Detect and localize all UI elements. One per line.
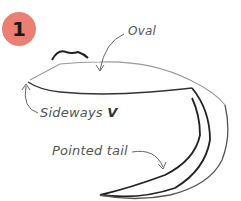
sketch-drawing <box>0 0 241 201</box>
step-number-badge: 1 <box>2 12 36 46</box>
label-sideways-v-letter: V <box>107 105 117 120</box>
drawing-step-canvas: 1 Oval Sideways V Pointed tail <box>0 0 241 201</box>
label-sideways-v: Sideways V <box>40 105 117 120</box>
label-oval: Oval <box>128 24 156 38</box>
oval-top-stroke <box>30 62 225 105</box>
oval-arrow <box>100 34 124 70</box>
label-pointed-tail: Pointed tail <box>52 143 128 158</box>
label-sideways-v-text: Sideways <box>40 105 107 120</box>
oval-bottom-stroke <box>28 82 192 94</box>
step-number: 1 <box>12 17 26 41</box>
sideways-v-arrow <box>25 86 38 113</box>
head-bump-stroke <box>52 51 88 60</box>
